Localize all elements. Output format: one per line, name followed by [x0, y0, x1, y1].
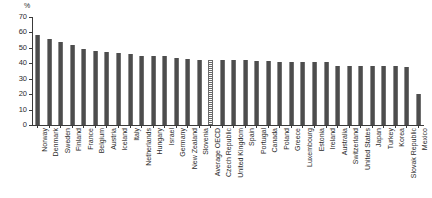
- bar: [174, 58, 179, 125]
- x-axis-label-slot: Slovak Republic: [401, 128, 413, 198]
- bar: [393, 66, 398, 125]
- bar-slot: [274, 17, 286, 125]
- y-axis-tick-label: 0: [23, 120, 27, 129]
- bar: [231, 60, 236, 125]
- x-axis-label-slot: Czech Republic: [217, 128, 229, 198]
- x-axis-label-slot: Sweden: [55, 128, 67, 198]
- x-axis-label-slot: Germany: [170, 128, 182, 198]
- x-axis-label-slot: Average OECD: [205, 128, 217, 198]
- x-axis-label-slot: Japan: [366, 128, 378, 198]
- bar-slot: [67, 17, 79, 125]
- bar-slot: [240, 17, 252, 125]
- bar-slot: [136, 17, 148, 125]
- y-axis-tick-label: 30: [19, 74, 27, 83]
- bar: [243, 60, 248, 125]
- bar-slot: [193, 17, 205, 125]
- bar-slot: [147, 17, 159, 125]
- x-axis-label-slot: Slovenia: [193, 128, 205, 198]
- bar: [220, 60, 225, 125]
- x-axis-label-slot: United Kingdom: [228, 128, 240, 198]
- bar: [93, 51, 98, 125]
- x-axis-label-slot: Luxembourg: [297, 128, 309, 198]
- bar: [162, 56, 167, 125]
- x-axis-label-slot: Greece: [286, 128, 298, 198]
- bar: [35, 35, 40, 125]
- bar-chart: % 010203040506070 NorwayDenmarkSwedenFin…: [0, 0, 432, 198]
- bar-slot: [355, 17, 367, 125]
- bar: [416, 94, 421, 125]
- bar-slot: [309, 17, 321, 125]
- bar: [254, 61, 259, 125]
- bar-slot: [55, 17, 67, 125]
- bar: [324, 62, 329, 125]
- bar-series: [32, 17, 424, 125]
- y-axis-tick-mark: [29, 125, 32, 126]
- y-axis-tick-label: 20: [19, 89, 27, 98]
- bar: [266, 61, 271, 125]
- bar-slot: [297, 17, 309, 125]
- bar: [58, 42, 63, 125]
- bar-slot: [113, 17, 125, 125]
- bar-slot: [320, 17, 332, 125]
- x-axis-label-slot: Hungary: [147, 128, 159, 198]
- bar: [185, 59, 190, 125]
- x-axis-category-labels: NorwayDenmarkSwedenFinlandFranceBelgiumA…: [32, 128, 424, 198]
- x-axis-category-label: Mexico: [421, 128, 428, 150]
- y-axis-tick-label: 40: [19, 58, 27, 67]
- bar: [370, 66, 375, 125]
- bar: [104, 52, 109, 125]
- bar-slot: [251, 17, 263, 125]
- bar: [81, 49, 86, 125]
- bar: [404, 67, 409, 125]
- bar-slot: [170, 17, 182, 125]
- bar-slot: [401, 17, 413, 125]
- x-axis-label-slot: Korea: [389, 128, 401, 198]
- x-axis-line: [32, 125, 424, 126]
- x-axis-label-slot: Portugal: [251, 128, 263, 198]
- y-axis-unit-label: %: [24, 2, 30, 9]
- bar-slot: [44, 17, 56, 125]
- x-axis-label-slot: Austria: [101, 128, 113, 198]
- bar-slot: [228, 17, 240, 125]
- y-axis-tick-label: 50: [19, 43, 27, 52]
- x-axis-label-slot: Estonia: [309, 128, 321, 198]
- x-axis-label-slot: Netherlands: [136, 128, 148, 198]
- bar-slot: [124, 17, 136, 125]
- bar-slot: [205, 17, 217, 125]
- bar: [358, 66, 363, 125]
- bar: [347, 66, 352, 125]
- bar-slot: [32, 17, 44, 125]
- y-axis-tick-label: 10: [19, 105, 27, 114]
- x-axis-label-slot: Australia: [332, 128, 344, 198]
- bar: [70, 45, 75, 125]
- y-axis-tick-label: 60: [19, 27, 27, 36]
- x-axis-label-slot: Spain: [240, 128, 252, 198]
- bar-slot: [366, 17, 378, 125]
- bar: [208, 60, 213, 125]
- x-axis-label-slot: Belgium: [90, 128, 102, 198]
- x-axis-label-slot: United States: [355, 128, 367, 198]
- x-axis-label-slot: Israel: [159, 128, 171, 198]
- bar: [197, 60, 202, 125]
- x-axis-label-slot: Italy: [124, 128, 136, 198]
- bar-slot: [378, 17, 390, 125]
- bar-slot: [343, 17, 355, 125]
- bar: [139, 56, 144, 125]
- bar: [312, 62, 317, 125]
- x-axis-label-slot: New Zealand: [182, 128, 194, 198]
- bar: [300, 62, 305, 125]
- y-axis-tick-label: 70: [19, 12, 27, 21]
- bar: [381, 66, 386, 125]
- bar-slot: [413, 17, 425, 125]
- x-axis-label-slot: France: [78, 128, 90, 198]
- bar: [128, 54, 133, 125]
- x-axis-label-slot: Denmark: [44, 128, 56, 198]
- bar-slot: [182, 17, 194, 125]
- x-axis-label-slot: Poland: [274, 128, 286, 198]
- bar-slot: [101, 17, 113, 125]
- x-axis-label-slot: Ireland: [320, 128, 332, 198]
- bar-slot: [159, 17, 171, 125]
- plot-area: [32, 17, 424, 125]
- bar: [335, 66, 340, 125]
- bar: [47, 39, 52, 125]
